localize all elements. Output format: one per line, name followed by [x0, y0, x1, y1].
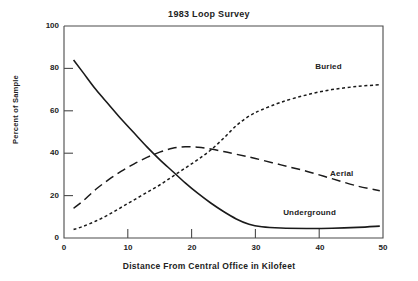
axis-ticks [64, 68, 319, 238]
data-series-group [74, 60, 380, 230]
series-label-underground: Underground [283, 208, 336, 217]
chart-figure: 1983 Loop Survey Percent of Sample Dista… [0, 0, 418, 281]
plot-area [0, 0, 418, 281]
axes-frame [64, 26, 383, 238]
series-line-underground [74, 60, 380, 229]
series-label-buried: Buried [315, 62, 342, 71]
series-label-aerial: Aerial [330, 169, 353, 178]
